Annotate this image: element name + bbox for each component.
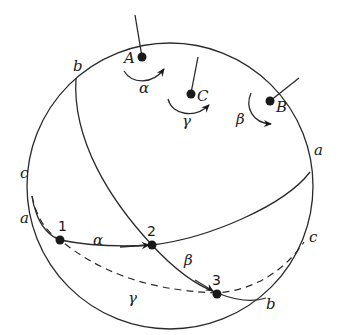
great-circle-c (32, 196, 304, 293)
rotation-alpha-label: α (139, 79, 149, 97)
circle-label-c-right: c (309, 228, 318, 246)
arc-beta-label: β (183, 251, 193, 269)
pole-c-dot (187, 90, 196, 99)
circle-a-left-edge (32, 196, 37, 215)
point-3-dot (213, 290, 222, 299)
circle-label-b-bottom: b (266, 295, 276, 313)
circle-label-b-top: b (73, 57, 83, 75)
pole-a-dot (138, 53, 147, 62)
pole-a-axis (135, 15, 142, 57)
circle-label-a-left: a (20, 209, 29, 227)
arc-alpha-label: α (93, 231, 103, 249)
beta-arrow (195, 280, 213, 291)
sphere-outline (27, 43, 313, 329)
rotation-beta-label: β (235, 110, 245, 128)
circle-label-c-left: c (20, 164, 29, 182)
point-3-label: 3 (212, 272, 221, 288)
great-circle-a (37, 172, 310, 246)
pole-c-label: C (197, 87, 209, 105)
circle-label-a-right: a (314, 141, 323, 159)
arc-gamma-label: γ (128, 289, 137, 307)
pole-b-dot (266, 97, 275, 106)
point-1-label: 1 (58, 218, 67, 234)
point-2-dot (148, 241, 157, 250)
rotation-gamma-label: γ (182, 112, 191, 130)
pole-a-label: A (122, 49, 135, 67)
point-1-dot (56, 236, 65, 245)
point-2-label: 2 (147, 223, 156, 239)
pole-b-label: B (275, 98, 287, 116)
sphere-rotation-diagram: A α C γ B β 1 2 3 α β γ b c a a c b (0, 0, 340, 335)
